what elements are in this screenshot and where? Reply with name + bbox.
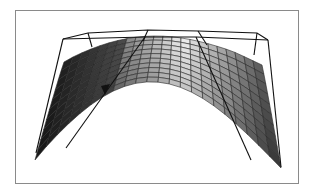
surface-plot-figure: [0, 0, 312, 188]
